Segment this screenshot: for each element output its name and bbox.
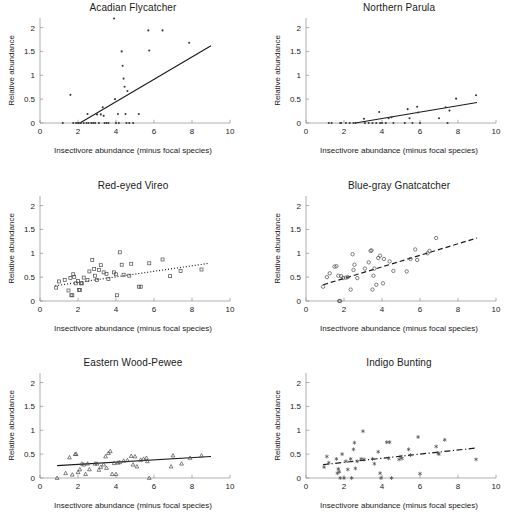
panel-acadian-flycatcher: Acadian FlycatcherRelative abundanceInse…	[0, 0, 266, 177]
x-tick-label: 2	[76, 305, 81, 314]
x-tick-label: 10	[226, 305, 235, 314]
x-tick-label: 0	[38, 482, 43, 491]
x-tick-label: 6	[152, 305, 157, 314]
panel-blue-gray-gnatcatcher: Blue-gray GnatcatcherRelative abundanceI…	[266, 178, 532, 355]
x-tick-label: 0	[304, 305, 309, 314]
x-tick-label: 2	[342, 127, 347, 136]
x-tick-label: 2	[76, 482, 81, 491]
plot-area-acadian-flycatcher: 024681000.511.52	[0, 0, 266, 145]
y-tick-label: 0	[297, 297, 302, 306]
data-points-indigo-bunting	[322, 429, 477, 480]
x-tick-label: 4	[114, 482, 119, 491]
x-axis-label-northern-parula: Insectivore abundance (minus focal speci…	[266, 146, 532, 155]
y-tick-label: 0	[297, 119, 302, 128]
data-points-northern-parula	[328, 94, 477, 124]
y-tick-label: 2	[31, 24, 36, 33]
data-points-blue-gray-gnatcatcher	[321, 236, 437, 302]
x-tick-label: 2	[76, 127, 81, 136]
y-tick-label: 0.5	[290, 273, 302, 282]
panel-indigo-bunting: Indigo BuntingRelative abundanceInsectiv…	[266, 355, 532, 532]
x-tick-label: 10	[226, 482, 235, 491]
x-tick-label: 4	[380, 127, 385, 136]
x-tick-label: 4	[380, 305, 385, 314]
x-tick-label: 0	[304, 482, 309, 491]
x-tick-label: 2	[342, 482, 347, 491]
data-points-acadian-flycatcher	[62, 17, 190, 124]
plot-area-northern-parula: 024681000.511.52	[266, 0, 532, 145]
plot-area-eastern-wood-pewee: 024681000.511.52	[0, 355, 266, 500]
y-tick-label: 2	[297, 202, 302, 211]
x-axis-label-blue-gray-gnatcatcher: Insectivore abundance (minus focal speci…	[266, 324, 532, 333]
regression-line-acadian-flycatcher	[80, 46, 211, 123]
y-tick-label: 2	[31, 202, 36, 211]
x-tick-label: 4	[114, 127, 119, 136]
axis-lines	[40, 18, 230, 123]
x-tick-label: 6	[152, 482, 157, 491]
x-tick-label: 6	[418, 482, 423, 491]
x-tick-label: 8	[190, 482, 195, 491]
x-tick-label: 0	[304, 127, 309, 136]
y-tick-label: 1.5	[290, 225, 302, 234]
y-tick-label: 0.5	[24, 450, 36, 459]
axis-lines	[40, 373, 230, 478]
plot-area-indigo-bunting: 024681000.511.52	[266, 355, 532, 500]
plot-area-red-eyed-vireo: 024681000.511.52	[0, 178, 266, 323]
x-tick-label: 2	[342, 305, 347, 314]
y-tick-label: 1	[297, 426, 302, 435]
panel-red-eyed-vireo: Red-eyed VireoRelative abundanceInsectiv…	[0, 178, 266, 355]
x-axis-label-eastern-wood-pewee: Insectivore abundance (minus focal speci…	[0, 501, 266, 510]
axis-lines	[306, 18, 496, 123]
y-tick-label: 1.5	[24, 225, 36, 234]
y-tick-label: 0.5	[24, 95, 36, 104]
x-tick-label: 0	[38, 305, 43, 314]
y-tick-label: 0.5	[290, 95, 302, 104]
y-tick-label: 0	[31, 119, 36, 128]
x-tick-label: 6	[418, 127, 423, 136]
x-tick-label: 10	[492, 305, 501, 314]
y-tick-label: 2	[297, 379, 302, 388]
axis-lines	[306, 196, 496, 301]
y-tick-label: 0	[31, 474, 36, 483]
y-tick-label: 1	[297, 249, 302, 258]
y-tick-label: 0.5	[290, 450, 302, 459]
y-tick-label: 1	[31, 249, 36, 258]
x-axis-label-red-eyed-vireo: Insectivore abundance (minus focal speci…	[0, 324, 266, 333]
figure-panel-grid: Acadian FlycatcherRelative abundanceInse…	[0, 0, 532, 532]
y-tick-label: 0	[297, 474, 302, 483]
data-points-red-eyed-vireo	[55, 251, 203, 297]
y-tick-label: 0.5	[24, 273, 36, 282]
y-tick-label: 1.5	[24, 402, 36, 411]
x-axis-label-indigo-bunting: Insectivore abundance (minus focal speci…	[266, 501, 532, 510]
x-tick-label: 8	[456, 127, 461, 136]
x-axis-label-acadian-flycatcher: Insectivore abundance (minus focal speci…	[0, 146, 266, 155]
panel-northern-parula: Northern ParulaRelative abundanceInsecti…	[266, 0, 532, 177]
axis-lines	[306, 373, 496, 478]
x-tick-label: 8	[456, 305, 461, 314]
panel-eastern-wood-pewee: Eastern Wood-PeweeRelative abundanceInse…	[0, 355, 266, 532]
y-tick-label: 2	[297, 24, 302, 33]
axis-lines	[40, 196, 230, 301]
x-tick-label: 8	[190, 305, 195, 314]
x-tick-label: 10	[226, 127, 235, 136]
x-tick-label: 6	[418, 305, 423, 314]
regression-line-northern-parula	[355, 102, 477, 123]
y-tick-label: 1	[297, 71, 302, 80]
y-tick-label: 1.5	[290, 47, 302, 56]
plot-area-blue-gray-gnatcatcher: 024681000.511.52	[266, 178, 532, 323]
x-tick-label: 10	[492, 127, 501, 136]
x-tick-label: 4	[380, 482, 385, 491]
y-tick-label: 1.5	[290, 402, 302, 411]
x-tick-label: 0	[38, 127, 43, 136]
y-tick-label: 2	[31, 379, 36, 388]
y-tick-label: 1	[31, 426, 36, 435]
x-tick-label: 4	[114, 305, 119, 314]
x-tick-label: 8	[190, 127, 195, 136]
x-tick-label: 8	[456, 482, 461, 491]
x-tick-label: 10	[492, 482, 501, 491]
x-tick-label: 6	[152, 127, 157, 136]
y-tick-label: 0	[31, 297, 36, 306]
y-tick-label: 1	[31, 71, 36, 80]
y-tick-label: 1.5	[24, 47, 36, 56]
